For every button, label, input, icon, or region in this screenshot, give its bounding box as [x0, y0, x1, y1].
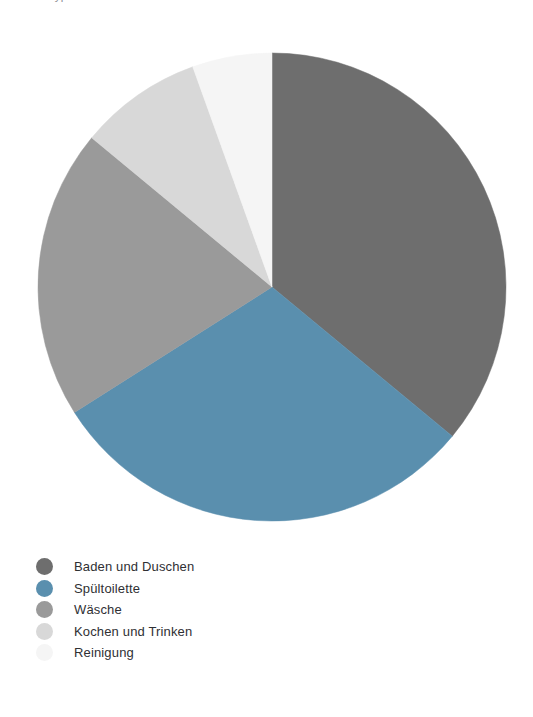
legend-swatch-icon: [36, 623, 53, 640]
pie-chart-svg: [0, 0, 533, 540]
pie-slice-group: [38, 53, 506, 521]
legend-item[interactable]: Spültoilette: [36, 578, 366, 600]
legend-swatch-icon: [36, 644, 53, 661]
legend-item-label: Spültoilette: [74, 582, 140, 595]
chart-legend: Baden und DuschenSpültoiletteWäscheKoche…: [36, 556, 366, 664]
legend-item[interactable]: Reinigung: [36, 642, 366, 664]
legend-swatch-icon: [36, 601, 53, 618]
legend-item[interactable]: Wäsche: [36, 599, 366, 621]
legend-item[interactable]: Kochen und Trinken: [36, 621, 366, 643]
legend-item-label: Reinigung: [74, 646, 134, 659]
legend-item-label: Wäsche: [74, 603, 122, 616]
pie-chart: [0, 0, 533, 540]
legend-list: Baden und DuschenSpültoiletteWäscheKoche…: [36, 556, 366, 664]
legend-item[interactable]: Baden und Duschen: [36, 556, 366, 578]
legend-swatch-icon: [36, 580, 53, 597]
legend-item-label: Kochen und Trinken: [74, 625, 192, 638]
legend-item-label: Baden und Duschen: [74, 560, 194, 573]
legend-swatch-icon: [36, 558, 53, 575]
